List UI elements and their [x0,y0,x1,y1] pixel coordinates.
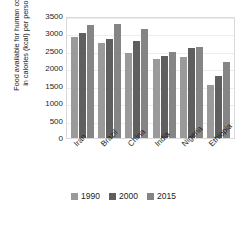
bar-chart-figure: Food available for human consumption in … [0,0,247,233]
y-axis-title: Food available for human consumption in … [5,0,37,92]
legend-swatch-icon [109,193,116,200]
legend-label: 2000 [119,192,138,201]
y-axis-tick-label: 1500 [45,83,63,91]
y-axis-tick-label: 2500 [45,48,63,56]
legend-label: 2015 [157,192,176,201]
bar-group [125,18,148,138]
legend-entry: 2000 [109,192,138,201]
bar [79,33,86,138]
bar [207,85,214,138]
legend-label: 1990 [81,192,100,201]
y-axis-tick-label: 3000 [45,30,63,38]
legend-swatch-icon [147,193,154,200]
bar [141,29,148,138]
bar [71,37,78,138]
bar-group [71,18,94,138]
bar [125,53,132,138]
y-axis-tick-label: 3500 [45,13,63,21]
x-axis-tick-labels: IranBrazilChinaIndiaNigeriaEthiopia [66,139,235,179]
y-axis-tick-label: 500 [50,118,63,126]
bar [188,48,195,138]
y-axis-tick-label: 1000 [45,100,63,108]
legend-swatch-icon [71,193,78,200]
y-axis-tick-labels: 0500100015002000250030003500 [38,17,63,139]
bar-group [207,18,230,138]
legend-entry: 1990 [71,192,100,201]
bar [161,56,168,138]
bar-group [153,18,176,138]
bar [153,59,160,138]
bar [87,25,94,138]
y-axis-tick-label: 2000 [45,65,63,73]
bar [114,24,121,138]
bar [169,52,176,138]
legend-entry: 2015 [147,192,176,201]
bar-group [180,18,203,138]
bar-groups [67,18,234,138]
bar [133,41,140,138]
bar [180,57,187,138]
bar-group [98,18,121,138]
bar [106,39,113,138]
bar [98,43,105,138]
plot-area [66,17,235,139]
y-axis-tick-label: 0 [59,135,63,143]
chart-legend: 199020002015 [0,192,247,201]
